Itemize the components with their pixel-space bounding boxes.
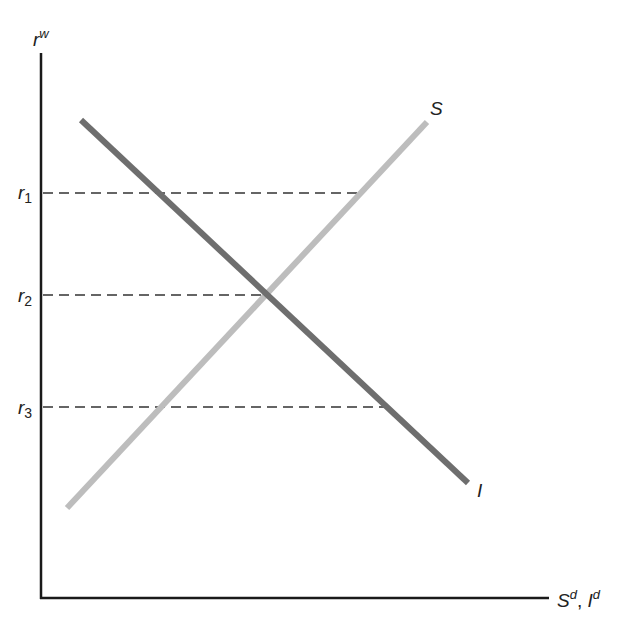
x-axis-label-s-sup: d <box>570 587 577 602</box>
r2-label: r2 <box>18 286 32 308</box>
x-axis-label-sep: , <box>577 590 588 611</box>
saving-curve <box>67 122 427 508</box>
x-axis-label-s: S <box>557 590 570 611</box>
r1-label: r1 <box>18 183 32 205</box>
r2-label-sub: 2 <box>24 293 32 309</box>
r1-label-sub: 1 <box>24 190 32 206</box>
r3-label-sub: 3 <box>24 405 32 421</box>
investment-curve-label: I <box>477 481 482 500</box>
y-axis-label-sup: w <box>39 26 48 41</box>
x-axis-label-i-sup: d <box>593 587 600 602</box>
x-axis-label: Sd, Id <box>557 588 600 610</box>
diagram-canvas <box>0 0 628 621</box>
saving-curve-label: S <box>430 99 443 118</box>
r3-label: r3 <box>18 398 32 420</box>
y-axis-label: rw <box>33 27 49 49</box>
